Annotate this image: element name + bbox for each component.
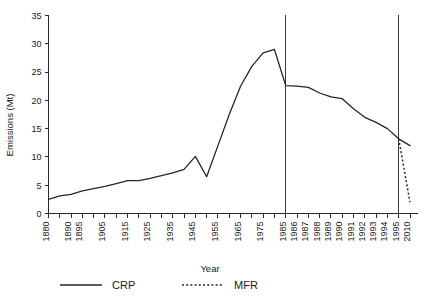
reference-line-group: [286, 15, 399, 214]
x-tick-label: 1915: [120, 222, 130, 242]
x-axis: 1880189018951905191519251935194519551965…: [41, 214, 419, 275]
x-tick-label: 1880: [41, 222, 51, 242]
x-tick-label: 1965: [233, 222, 243, 242]
emissions-line-chart: Emissions (Mt) 05101520253035 1880189018…: [0, 0, 423, 300]
y-axis-title: Emissions (Mt): [4, 94, 15, 157]
x-tick-label: 1895: [74, 222, 84, 242]
x-tick-label: 1993: [368, 222, 378, 242]
y-tick-label: 10: [31, 152, 41, 162]
series-group: [49, 49, 411, 202]
y-axis: 05101520253035: [31, 11, 48, 219]
x-tick-label: 1945: [187, 222, 197, 242]
chart-svg: Emissions (Mt) 05101520253035 1880189018…: [0, 0, 423, 300]
y-tick-group: 05101520253035: [31, 11, 48, 219]
y-axis-title-group: Emissions (Mt): [4, 94, 15, 157]
x-tick-label: 1986: [289, 222, 299, 242]
x-tick-label: 1925: [142, 222, 152, 242]
x-tick-label: 1994: [379, 222, 389, 242]
y-tick-label: 20: [31, 96, 41, 106]
x-tick-label: 1975: [255, 222, 265, 242]
x-tick-label: 1935: [165, 222, 175, 242]
x-tick-label: 1988: [312, 222, 322, 242]
x-tick-label: 1989: [323, 222, 333, 242]
y-tick-label: 0: [36, 209, 41, 219]
y-tick-label: 5: [36, 181, 41, 191]
x-tick-group: 1880189018951905191519251935194519551965…: [41, 214, 413, 242]
series-line-crp: [49, 49, 411, 199]
x-tick-label: 1990: [334, 222, 344, 242]
y-tick-label: 25: [31, 67, 41, 77]
legend: CRP MFR: [60, 279, 258, 291]
legend-label-crp: CRP: [112, 279, 135, 291]
x-tick-label: 1992: [357, 222, 367, 242]
x-axis-title: Year: [200, 263, 219, 274]
y-tick-label: 30: [31, 39, 41, 49]
y-tick-label: 15: [31, 124, 41, 134]
x-tick-label: 1991: [346, 222, 356, 242]
x-tick-label: 1995: [391, 222, 401, 242]
x-tick-label: 1905: [97, 222, 107, 242]
x-tick-label: 1985: [278, 222, 288, 242]
x-tick-label: 1955: [210, 222, 220, 242]
x-tick-label: 1890: [63, 222, 73, 242]
x-tick-label: 2010: [402, 222, 412, 242]
series-line-mfr: [399, 139, 410, 202]
legend-label-mfr: MFR: [234, 279, 258, 291]
x-tick-label: 1987: [300, 222, 310, 242]
y-tick-label: 35: [31, 11, 41, 21]
